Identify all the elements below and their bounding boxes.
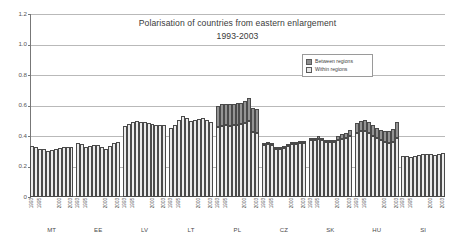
- year-label-group-pl: 1993199520002003: [216, 198, 259, 222]
- bar-segment-within-regions: [162, 125, 166, 197]
- bar-segment-within-regions: [255, 133, 259, 197]
- year-label-group-cz: 1993199520002003: [262, 198, 305, 222]
- year-label-group-si: 1993199520002003: [402, 198, 445, 222]
- year-tick-cell: 2003: [70, 198, 74, 222]
- bar-group-pl: [216, 14, 259, 197]
- x-axis-year-label: 2003: [441, 198, 446, 208]
- bar: [116, 14, 120, 197]
- legend-swatch-between-icon: [306, 59, 312, 65]
- y-axis-tick-label: 0.2: [5, 163, 27, 169]
- x-axis-year-label: 2003: [394, 198, 399, 208]
- legend-swatch-within-icon: [306, 67, 312, 73]
- x-axis-year-label: 2003: [348, 198, 353, 208]
- bar: [302, 14, 306, 197]
- x-axis-year-label: 2003: [209, 198, 214, 208]
- bar: [70, 14, 74, 197]
- bar-segment-within-regions: [209, 122, 213, 197]
- x-axis-country-label-si: SI: [402, 224, 445, 236]
- bar-group-cz: [262, 14, 305, 197]
- year-tick-cell: 2003: [395, 198, 399, 222]
- year-tick-cell: 2003: [209, 198, 213, 222]
- chart-legend: Between regions Within regions: [302, 54, 373, 77]
- bar-group-si: [402, 14, 445, 197]
- x-axis-year-label: 2003: [255, 198, 260, 208]
- year-label-group-ee: 1993199520002003: [76, 198, 119, 222]
- year-tick-cell: 2003: [116, 198, 120, 222]
- x-axis-country-label-sk: SK: [309, 224, 352, 236]
- x-axis-country-labels: MTEELVLTPLCZSKHUSI: [30, 224, 445, 236]
- bar: [162, 14, 166, 197]
- x-axis-year-label: 2003: [301, 198, 306, 208]
- bar-segment-within-regions: [348, 136, 352, 197]
- y-axis-tick-label: 0.6: [5, 102, 27, 108]
- x-axis-year-label: 2003: [69, 198, 74, 208]
- x-axis-country-label-hu: HU: [355, 224, 398, 236]
- year-tick-cell: 2003: [441, 198, 445, 222]
- legend-item-within: Within regions: [306, 66, 369, 73]
- bar-group-sk: [309, 14, 352, 197]
- legend-item-between: Between regions: [306, 58, 369, 65]
- x-axis-country-label-ee: EE: [76, 224, 119, 236]
- bar-group-ee: [76, 14, 119, 197]
- bar-segment-between-regions: [255, 109, 259, 133]
- bar-segment-within-regions: [302, 143, 306, 197]
- bar-segment-between-regions: [395, 122, 399, 138]
- bar: [209, 14, 213, 197]
- x-axis-year-labels: 1993199520002003199319952000200319931995…: [30, 198, 445, 222]
- x-axis-country-label-lt: LT: [169, 224, 212, 236]
- year-label-group-sk: 1993199520002003: [309, 198, 352, 222]
- year-tick-cell: 2003: [255, 198, 259, 222]
- bar: [255, 14, 259, 197]
- bar-group-hu: [355, 14, 398, 197]
- year-label-group-lv: 1993199520002003: [123, 198, 166, 222]
- bar: [348, 14, 352, 197]
- year-tick-cell: 2003: [348, 198, 352, 222]
- bar: [395, 14, 399, 197]
- y-axis-tick-label: 0: [5, 194, 27, 200]
- x-axis-country-label-mt: MT: [30, 224, 73, 236]
- year-tick-cell: 2003: [162, 198, 166, 222]
- x-axis-country-label-cz: CZ: [262, 224, 305, 236]
- y-axis-tick-label: 0.4: [5, 133, 27, 139]
- bar-group-mt: [30, 14, 73, 197]
- x-axis-country-label-pl: PL: [216, 224, 259, 236]
- bar-groups: [30, 14, 445, 197]
- y-axis-tick-label: 1.2: [5, 11, 27, 17]
- year-tick-cell: 2003: [302, 198, 306, 222]
- year-label-group-mt: 1993199520002003: [30, 198, 73, 222]
- legend-label-within: Within regions: [315, 67, 347, 72]
- x-axis-year-label: 2003: [162, 198, 167, 208]
- y-axis-tick-label: 0.8: [5, 72, 27, 78]
- x-axis-year-label: 2003: [116, 198, 121, 208]
- bar-segment-within-regions: [395, 138, 399, 197]
- year-label-group-lt: 1993199520002003: [169, 198, 212, 222]
- bar-group-lv: [123, 14, 166, 197]
- chart-root: 00.20.40.60.81.01.2 Polarisation of coun…: [0, 0, 450, 242]
- bar-segment-within-regions: [70, 147, 74, 197]
- year-label-group-hu: 1993199520002003: [355, 198, 398, 222]
- bar-group-lt: [169, 14, 212, 197]
- x-axis-country-label-lv: LV: [123, 224, 166, 236]
- bar-segment-within-regions: [441, 153, 445, 197]
- y-axis-tick-label: 1.0: [5, 41, 27, 47]
- bar-segment-within-regions: [116, 142, 120, 197]
- bar: [441, 14, 445, 197]
- legend-label-between: Between regions: [315, 59, 353, 64]
